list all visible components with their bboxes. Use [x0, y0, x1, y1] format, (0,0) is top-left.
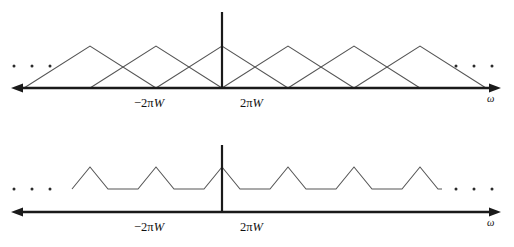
bottom-ellipsis-right — [455, 188, 494, 191]
top-tick-label-negative: −2πW — [134, 96, 166, 110]
bottom-trapezoid-waveform — [72, 167, 442, 189]
top-triangle-waveform — [24, 46, 486, 88]
bottom-tick-label-negative: −2πW — [134, 220, 166, 234]
ellipsis-dot — [491, 65, 494, 68]
ellipsis-dot — [31, 188, 34, 191]
ellipsis-dot — [49, 188, 52, 191]
top-ellipsis-right — [455, 65, 494, 68]
bottom-omega-axis-label: ω — [487, 217, 494, 228]
ellipsis-dot — [455, 188, 458, 191]
top-panel: −2πW 2πW ω — [11, 12, 501, 110]
ellipsis-dot — [491, 188, 494, 191]
ellipsis-dot — [473, 65, 476, 68]
triangle-replica — [222, 46, 354, 88]
bottom-axis-arrow-left — [11, 207, 23, 216]
triangle-replica — [90, 46, 222, 88]
bottom-ellipsis-left — [13, 188, 52, 191]
triangle-replica — [288, 46, 420, 88]
bottom-omega-axis — [11, 207, 501, 216]
triangle-replica — [354, 46, 486, 88]
top-ellipsis-left — [13, 65, 52, 68]
top-omega-axis-label: ω — [487, 93, 494, 104]
top-axis-arrow-right — [489, 83, 501, 92]
ellipsis-dot — [13, 65, 16, 68]
spectrum-figure: −2πW 2πW ω — [0, 0, 514, 247]
triangle-replica — [24, 46, 156, 88]
ellipsis-dot — [49, 65, 52, 68]
ellipsis-dot — [455, 65, 458, 68]
figure-canvas: −2πW 2πW ω — [0, 0, 514, 247]
top-axis-arrow-left — [11, 83, 23, 92]
ellipsis-dot — [473, 188, 476, 191]
bottom-tick-label-positive: 2πW — [240, 220, 265, 234]
bottom-panel: −2πW 2πW ω — [11, 145, 501, 234]
trapezoid-ripple — [72, 167, 442, 189]
ellipsis-dot — [31, 65, 34, 68]
top-omega-axis — [11, 83, 501, 92]
top-tick-label-positive: 2πW — [240, 96, 265, 110]
bottom-axis-arrow-right — [489, 207, 501, 216]
ellipsis-dot — [13, 188, 16, 191]
